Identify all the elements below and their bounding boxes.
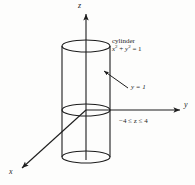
surface-label: y = 1 xyxy=(131,84,146,91)
figure-canvas: z y x cylinder x2 + y2 = 1 y = 1 −4 ≤ z … xyxy=(0,0,195,185)
cylinder-diagram-svg xyxy=(0,0,195,185)
cylinder-equation-plus: + xyxy=(118,45,125,53)
cylinder-equation-equals-one: = 1 xyxy=(131,45,142,53)
cylinder-annotation: cylinder x2 + y2 = 1 xyxy=(112,38,142,54)
surface-label-leader-arrow xyxy=(104,71,128,88)
x-axis-line xyxy=(22,110,86,168)
cylinder-equation: x2 + y2 = 1 xyxy=(112,46,142,53)
z-axis-label: z xyxy=(78,2,81,10)
z-range-label: −4 ≤ z ≤ 4 xyxy=(119,118,148,125)
x-axis-label: x xyxy=(9,168,13,176)
y-axis-label: y xyxy=(184,101,188,109)
